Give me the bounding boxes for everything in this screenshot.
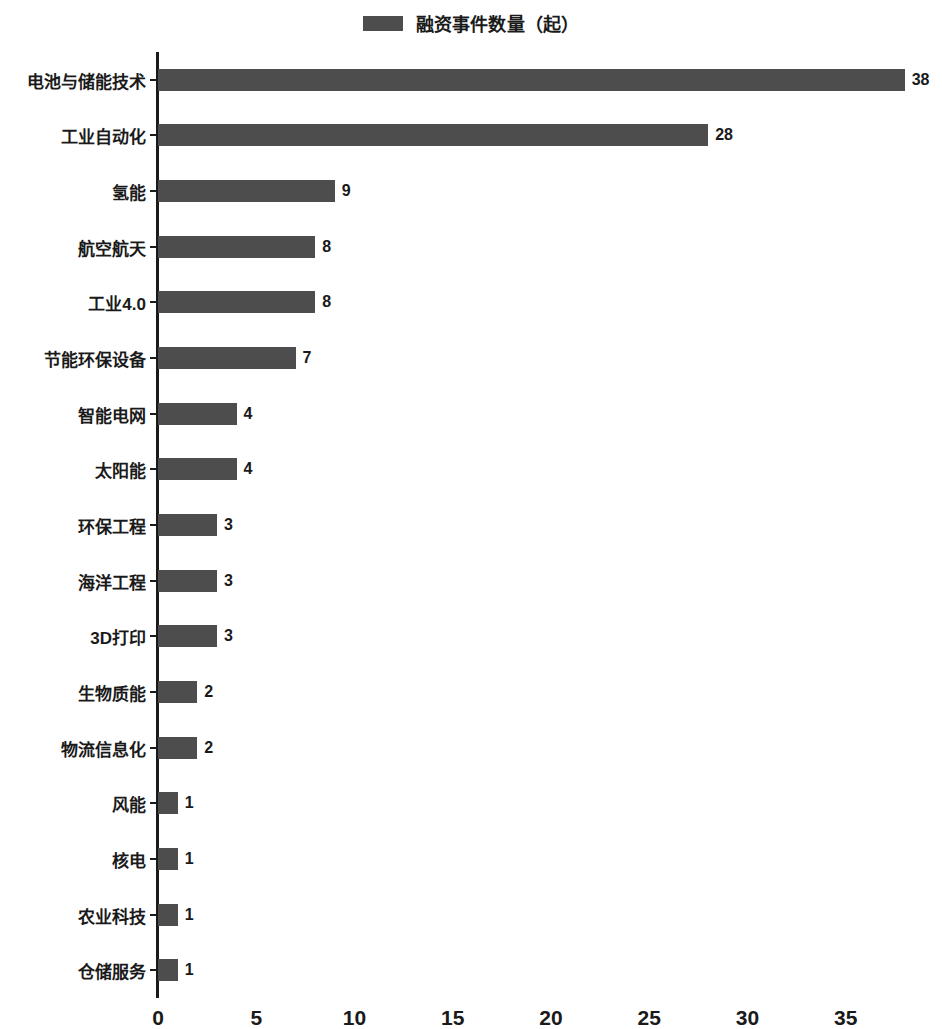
x-axis-tick-label: 30 bbox=[736, 1006, 759, 1029]
y-axis-label-wrap: 核电 bbox=[0, 848, 146, 870]
bar-row: 工业自动化28 bbox=[158, 124, 942, 146]
y-axis-tick-mark bbox=[150, 691, 157, 693]
bar-value-label: 9 bbox=[342, 182, 351, 200]
y-axis-label-wrap: 环保工程 bbox=[0, 514, 146, 536]
bar bbox=[158, 570, 217, 592]
y-axis-category-label: 工业自动化 bbox=[61, 123, 146, 148]
bar-value-label: 3 bbox=[224, 627, 233, 645]
x-axis-tick-label: 35 bbox=[834, 1006, 857, 1029]
y-axis-category-label: 航空航天 bbox=[78, 234, 146, 259]
y-axis-label-wrap: 节能环保设备 bbox=[0, 347, 146, 369]
bar bbox=[158, 848, 178, 870]
y-axis-label-wrap: 氢能 bbox=[0, 180, 146, 202]
bar-row: 电池与储能技术38 bbox=[158, 69, 942, 91]
legend-item-financing-events: 融资事件数量（起） bbox=[363, 10, 580, 36]
y-axis-tick-mark bbox=[150, 468, 157, 470]
bar-row: 风能1 bbox=[158, 792, 942, 814]
y-axis-tick-mark bbox=[150, 134, 157, 136]
y-axis-tick-mark bbox=[150, 524, 157, 526]
y-axis-category-label: 氢能 bbox=[112, 179, 146, 204]
y-axis-tick-mark bbox=[150, 357, 157, 359]
bar-value-label: 3 bbox=[224, 516, 233, 534]
bar bbox=[158, 347, 296, 369]
bar-row: 智能电网4 bbox=[158, 403, 942, 425]
bar-value-label: 4 bbox=[244, 405, 253, 423]
y-axis-category-label: 3D打印 bbox=[90, 624, 146, 649]
y-axis-category-label: 仓储服务 bbox=[78, 958, 146, 983]
bar bbox=[158, 904, 178, 926]
x-axis-tick-label: 10 bbox=[343, 1006, 366, 1029]
y-axis-category-label: 电池与储能技术 bbox=[27, 67, 146, 92]
x-axis-tick-label: 5 bbox=[250, 1006, 262, 1029]
bar-value-label: 2 bbox=[204, 683, 213, 701]
y-axis-label-wrap: 3D打印 bbox=[0, 625, 146, 647]
bar-value-label: 4 bbox=[244, 460, 253, 478]
chart-legend: 融资事件数量（起） bbox=[0, 10, 942, 36]
y-axis-label-wrap: 电池与储能技术 bbox=[0, 69, 146, 91]
x-axis-tick-label: 20 bbox=[539, 1006, 562, 1029]
y-axis-category-label: 工业4.0 bbox=[88, 290, 146, 315]
y-axis-label-wrap: 智能电网 bbox=[0, 403, 146, 425]
y-axis-tick-mark bbox=[150, 413, 157, 415]
bar bbox=[158, 514, 217, 536]
y-axis-category-label: 核电 bbox=[112, 846, 146, 871]
bar-row: 工业4.08 bbox=[158, 291, 942, 313]
bar-value-label: 8 bbox=[322, 238, 331, 256]
bar-row: 3D打印3 bbox=[158, 625, 942, 647]
plot-area: 电池与储能技术38工业自动化28氢能9航空航天8工业4.08节能环保设备7智能电… bbox=[158, 52, 942, 998]
y-axis-label-wrap: 生物质能 bbox=[0, 681, 146, 703]
bar-value-label: 3 bbox=[224, 572, 233, 590]
y-axis-category-label: 节能环保设备 bbox=[44, 346, 146, 371]
y-axis-category-label: 农业科技 bbox=[78, 902, 146, 927]
bar-row: 生物质能2 bbox=[158, 681, 942, 703]
y-axis-tick-mark bbox=[150, 79, 157, 81]
bar-value-label: 1 bbox=[185, 850, 194, 868]
bar-row: 仓储服务1 bbox=[158, 959, 942, 981]
y-axis-category-label: 海洋工程 bbox=[78, 568, 146, 593]
bar bbox=[158, 236, 315, 258]
legend-item-label: 融资事件数量（起） bbox=[416, 10, 580, 36]
y-axis-tick-mark bbox=[150, 301, 157, 303]
bar bbox=[158, 458, 237, 480]
bar bbox=[158, 625, 217, 647]
y-axis-tick-mark bbox=[150, 858, 157, 860]
y-axis-label-wrap: 航空航天 bbox=[0, 236, 146, 258]
y-axis-tick-mark bbox=[150, 802, 157, 804]
y-axis-category-label: 太阳能 bbox=[95, 457, 146, 482]
bar bbox=[158, 403, 237, 425]
x-axis-tick-label: 25 bbox=[638, 1006, 661, 1029]
bar-row: 环保工程3 bbox=[158, 514, 942, 536]
y-axis-category-label: 环保工程 bbox=[78, 513, 146, 538]
y-axis-label-wrap: 太阳能 bbox=[0, 458, 146, 480]
y-axis-label-wrap: 工业自动化 bbox=[0, 124, 146, 146]
bar-value-label: 2 bbox=[204, 739, 213, 757]
bar-value-label: 38 bbox=[912, 71, 930, 89]
bar-row: 物流信息化2 bbox=[158, 737, 942, 759]
y-axis-tick-mark bbox=[150, 190, 157, 192]
bar bbox=[158, 681, 197, 703]
bar-row: 节能环保设备7 bbox=[158, 347, 942, 369]
y-axis-label-wrap: 物流信息化 bbox=[0, 737, 146, 759]
bar-value-label: 7 bbox=[303, 349, 312, 367]
y-axis-label-wrap: 农业科技 bbox=[0, 904, 146, 926]
bar-row: 航空航天8 bbox=[158, 236, 942, 258]
x-axis-tick-label: 0 bbox=[152, 1006, 164, 1029]
bar bbox=[158, 69, 905, 91]
y-axis-label-wrap: 海洋工程 bbox=[0, 570, 146, 592]
y-axis-category-label: 生物质能 bbox=[78, 679, 146, 704]
y-axis-label-wrap: 风能 bbox=[0, 792, 146, 814]
bar-row: 海洋工程3 bbox=[158, 570, 942, 592]
bar bbox=[158, 180, 335, 202]
bar-value-label: 1 bbox=[185, 794, 194, 812]
bar-value-label: 28 bbox=[715, 126, 733, 144]
bar-row: 核电1 bbox=[158, 848, 942, 870]
bar bbox=[158, 737, 197, 759]
x-axis-tick-label: 15 bbox=[441, 1006, 464, 1029]
bar-value-label: 1 bbox=[185, 906, 194, 924]
y-axis-category-label: 智能电网 bbox=[78, 401, 146, 426]
bar-row: 太阳能4 bbox=[158, 458, 942, 480]
bar bbox=[158, 792, 178, 814]
y-axis-tick-mark bbox=[150, 246, 157, 248]
bar-value-label: 1 bbox=[185, 961, 194, 979]
y-axis-tick-mark bbox=[150, 580, 157, 582]
